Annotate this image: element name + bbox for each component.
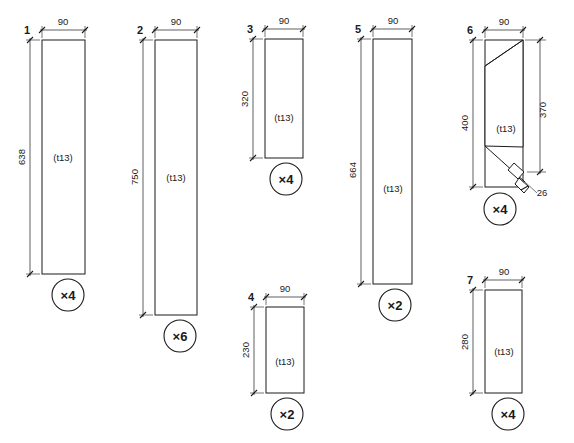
part-3-width-label: 90: [279, 15, 290, 26]
part-6-number: 6: [467, 24, 473, 36]
part-6-width-label: 90: [499, 16, 510, 27]
part-7-width-label: 90: [499, 266, 510, 277]
part-5-thickness-label: (t13): [383, 183, 403, 194]
part-2-height-label: 750: [129, 169, 140, 185]
part-1-thickness-label: (t13): [53, 152, 73, 163]
part-3-number: 3: [247, 23, 253, 35]
cut-list-drawing: 90 638 1 (t13) ×4 90 750 2 (t13) ×6: [0, 0, 574, 443]
part-7-quantity-label: ×4: [501, 407, 517, 422]
part-7-number: 7: [467, 274, 473, 286]
part-4-width-label: 90: [280, 283, 291, 294]
part-group-3: 90 320 3 (t13) ×4: [239, 15, 306, 195]
part-6-detail-label: 26: [537, 187, 548, 198]
part-4-number: 4: [248, 291, 255, 303]
drawing-canvas: 90 638 1 (t13) ×4 90 750 2 (t13) ×6: [0, 0, 574, 443]
part-4-thickness-label: (t13): [275, 356, 295, 367]
part-group-7: 90 280 7 (t13) ×4: [459, 266, 525, 430]
part-4-quantity-label: ×2: [280, 407, 295, 422]
part-group-4: 90 230 4 (t13) ×2: [240, 283, 307, 430]
part-1-number: 1: [24, 24, 30, 36]
part-5-outline: [373, 39, 412, 284]
part-2-width-label: 90: [171, 16, 182, 27]
part-2-number: 2: [137, 24, 143, 36]
part-6-height-label: 400: [459, 115, 470, 131]
part-group-2: 90 750 2 (t13) ×6: [129, 16, 200, 352]
part-3-outline: [265, 39, 303, 158]
part-1-quantity-label: ×4: [61, 288, 77, 303]
part-group-6: 26 90 400 370 6 (t13) ×4: [459, 16, 548, 225]
part-group-1: 90 638 1 (t13) ×4: [16, 16, 88, 311]
part-2-quantity-label: ×6: [173, 329, 188, 344]
part-4-outline: [266, 307, 304, 393]
part-3-thickness-label: (t13): [274, 112, 294, 123]
part-6-right-height-label: 370: [537, 102, 548, 118]
part-1-height-label: 638: [16, 149, 27, 165]
part-6-quantity-label: ×4: [493, 202, 509, 217]
part-5-height-label: 664: [347, 162, 358, 178]
part-5-quantity-label: ×2: [388, 298, 403, 313]
part-6-thickness-label: (t13): [496, 123, 516, 134]
part-7-outline: [485, 290, 522, 393]
part-7-height-label: 280: [459, 334, 470, 350]
part-3-height-label: 320: [239, 91, 250, 107]
part-2-thickness-label: (t13): [166, 172, 186, 183]
part-5-number: 5: [355, 23, 361, 35]
part-5-width-label: 90: [388, 15, 399, 26]
part-7-thickness-label: (t13): [494, 346, 514, 357]
part-group-5: 90 664 5 (t13) ×2: [347, 15, 415, 321]
part-3-quantity-label: ×4: [279, 172, 295, 187]
part-1-width-label: 90: [58, 16, 69, 27]
part-4-height-label: 230: [240, 342, 251, 358]
part-6-detail-box-2: [515, 178, 529, 193]
